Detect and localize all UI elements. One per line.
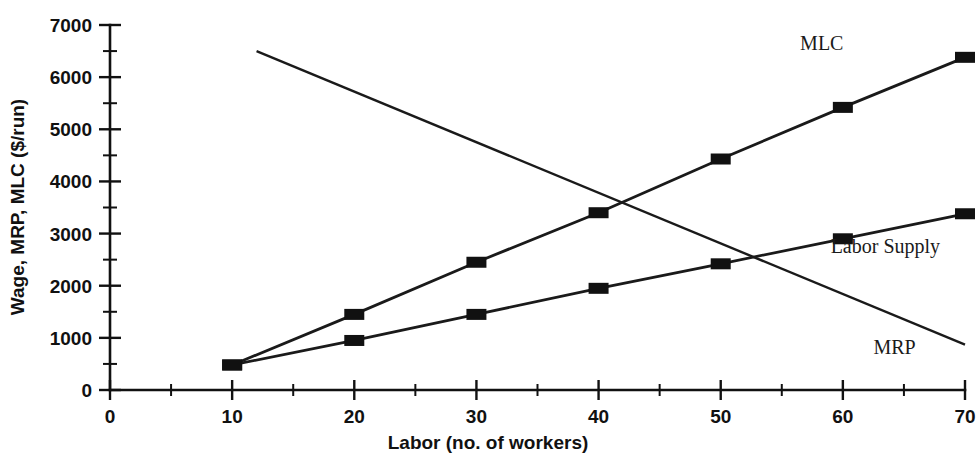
x-tick-label: 30 [466, 406, 487, 427]
x-tick-label: 10 [222, 406, 243, 427]
y-tick-label: 4000 [50, 171, 92, 192]
y-tick-label: 7000 [50, 15, 92, 36]
data-point-marker [711, 154, 731, 165]
y-tick-label: 5000 [50, 119, 92, 140]
x-tick-label: 50 [710, 406, 731, 427]
data-point-marker [466, 309, 486, 320]
y-tick-label: 6000 [50, 67, 92, 88]
x-tick-label: 0 [105, 406, 116, 427]
series-label-mrp: MRP [873, 336, 915, 358]
data-point-marker [589, 283, 609, 294]
data-point-marker [711, 258, 731, 269]
y-tick-label: 2000 [50, 276, 92, 297]
data-point-marker [833, 102, 853, 113]
x-tick-label: 70 [954, 406, 975, 427]
data-point-marker [344, 335, 364, 346]
chart-background [0, 0, 976, 454]
series-label-labor-supply: Labor Supply [831, 235, 940, 258]
data-point-marker [589, 207, 609, 218]
data-point-marker [222, 359, 242, 370]
chart-container: 01000200030004000500060007000 0102030405… [0, 0, 976, 454]
x-axis-title: Labor (no. of workers) [388, 432, 589, 453]
y-tick-label: 0 [81, 380, 92, 401]
y-tick-label: 1000 [50, 328, 92, 349]
series-label-mlc: MLC [800, 32, 843, 54]
y-axis-title: Wage, MRP, MLC ($/run) [7, 99, 28, 315]
data-point-marker [344, 309, 364, 320]
y-tick-label: 3000 [50, 224, 92, 245]
x-tick-label: 40 [588, 406, 609, 427]
data-point-marker [955, 208, 975, 219]
data-point-marker [466, 257, 486, 268]
x-tick-label: 20 [344, 406, 365, 427]
data-point-marker [955, 52, 975, 63]
x-tick-label: 60 [832, 406, 853, 427]
line-chart: 01000200030004000500060007000 0102030405… [0, 0, 976, 454]
